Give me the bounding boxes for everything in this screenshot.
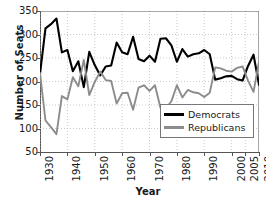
x-tick-mark bbox=[177, 152, 178, 156]
x-tick-label: 2010 bbox=[264, 156, 266, 196]
x-tick-mark bbox=[245, 152, 246, 156]
x-tick-mark bbox=[232, 152, 233, 156]
x-tick-mark bbox=[40, 152, 41, 156]
legend-swatch-democrats bbox=[164, 113, 184, 116]
legend-item-democrats: Democrats bbox=[164, 108, 250, 121]
legend-label-republicans: Republicans bbox=[188, 122, 245, 133]
x-axis-title: Year bbox=[36, 186, 260, 197]
x-tick-mark bbox=[95, 152, 96, 156]
x-axis-tick-labels: 1930194019501960197019801990200020052010 bbox=[0, 0, 266, 204]
x-tick-mark bbox=[259, 152, 260, 156]
x-tick-mark bbox=[122, 152, 123, 156]
seats-line-chart: Number of Seats 35030025020015010050 193… bbox=[0, 0, 266, 204]
x-tick-mark bbox=[204, 152, 205, 156]
chart-legend: Democrats Republicans bbox=[160, 104, 254, 138]
x-tick-mark bbox=[150, 152, 151, 156]
legend-label-democrats: Democrats bbox=[188, 109, 240, 120]
legend-item-republicans: Republicans bbox=[164, 121, 250, 134]
x-tick-mark bbox=[67, 152, 68, 156]
legend-swatch-republicans bbox=[164, 126, 184, 129]
